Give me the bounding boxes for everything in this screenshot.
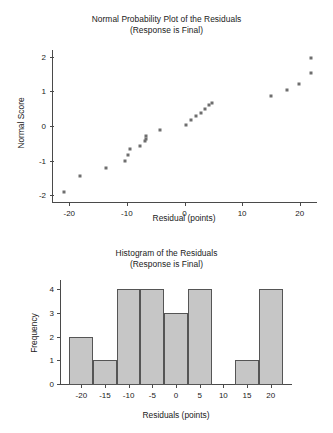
histogram-plot-area: -20-15-10-50510152001234 xyxy=(60,280,292,384)
normal-plot-y-tick xyxy=(50,195,54,196)
histogram-y-tick xyxy=(57,360,61,361)
histogram-figure: Histogram of the Residuals (Response is … xyxy=(0,240,333,433)
normal-plot-title: Normal Probability Plot of the Residuals… xyxy=(0,14,333,36)
scatter-point xyxy=(203,108,206,111)
histogram-y-tick xyxy=(57,384,61,385)
histogram-title: Histogram of the Residuals (Response is … xyxy=(0,248,333,270)
histogram-x-tick-label: 20 xyxy=(266,391,275,400)
scatter-point xyxy=(123,160,126,163)
scatter-point xyxy=(310,56,313,59)
scatter-point xyxy=(105,166,108,169)
histogram-x-tick-label: -20 xyxy=(76,391,88,400)
histogram-x-tick-label: 15 xyxy=(243,391,252,400)
histogram-title-main: Histogram of the Residuals xyxy=(116,248,218,258)
histogram-x-tick-label: -5 xyxy=(149,391,156,400)
histogram-y-axis xyxy=(60,280,61,385)
normal-plot-plot-area: -20-1001020-2-1012 xyxy=(52,50,317,202)
normal-plot-y-tick-label: -1 xyxy=(28,156,46,165)
scatter-point xyxy=(138,144,141,147)
normal-plot-x-tick-label: 10 xyxy=(238,209,247,218)
scatter-point xyxy=(129,148,132,151)
histogram-x-tick-label: -15 xyxy=(99,391,111,400)
histogram-y-tick xyxy=(57,313,61,314)
scatter-point xyxy=(208,104,211,107)
histogram-x-tick-label: -10 xyxy=(123,391,135,400)
normal-plot-y-tick-label: 1 xyxy=(28,87,46,96)
scatter-point xyxy=(144,138,147,141)
normal-plot-y-tick xyxy=(50,57,54,58)
normal-plot-x-tick xyxy=(185,202,186,206)
normal-plot-x-tick xyxy=(242,202,243,206)
histogram-title-sub: (Response is Final) xyxy=(0,259,333,270)
normal-plot-x-tick xyxy=(127,202,128,206)
histogram-x-tick-label: 0 xyxy=(174,391,178,400)
normal-plot-title-sub: (Response is Final) xyxy=(0,25,333,36)
normal-plot-title-main: Normal Probability Plot of the Residuals xyxy=(92,14,242,24)
scatter-point xyxy=(309,71,312,74)
normal-plot-y-tick-label: 2 xyxy=(28,52,46,61)
scatter-point xyxy=(127,154,130,157)
scatter-point xyxy=(210,101,213,104)
scatter-point xyxy=(270,95,273,98)
scatter-point xyxy=(286,89,289,92)
normal-plot-x-tick xyxy=(69,202,70,206)
histogram-y-tick-label: 0 xyxy=(35,380,54,389)
scatter-point xyxy=(195,115,198,118)
scatter-point xyxy=(199,111,202,114)
histogram-bar xyxy=(188,289,212,385)
normal-plot-x-axis-title: Residual (points) xyxy=(153,213,216,223)
normal-plot-y-tick xyxy=(50,126,54,127)
histogram-bar xyxy=(235,360,259,385)
normal-plot-y-axis-title: Normal Score xyxy=(16,88,26,158)
histogram-x-tick xyxy=(223,384,224,388)
histogram-x-tick-label: 10 xyxy=(219,391,228,400)
scatter-point xyxy=(189,119,192,122)
normal-plot-y-tick-label: -2 xyxy=(28,191,46,200)
normal-plot-x-tick xyxy=(300,202,301,206)
scatter-point xyxy=(298,82,301,85)
histogram-bar xyxy=(69,337,93,385)
scatter-point xyxy=(145,135,148,138)
scatter-point xyxy=(78,175,81,178)
normal-plot-y-tick xyxy=(50,91,54,92)
histogram-y-tick xyxy=(57,337,61,338)
histogram-x-tick-label: 5 xyxy=(197,391,201,400)
histogram-bar xyxy=(164,313,188,385)
normal-probability-plot-figure: Normal Probability Plot of the Residuals… xyxy=(0,0,333,240)
histogram-bar xyxy=(117,289,141,385)
histogram-y-tick xyxy=(57,289,61,290)
histogram-bar xyxy=(259,289,283,385)
histogram-y-tick-label: 4 xyxy=(35,285,54,294)
normal-plot-y-tick-label: 0 xyxy=(28,122,46,131)
histogram-bar xyxy=(93,360,117,385)
normal-plot-y-tick xyxy=(50,161,54,162)
histogram-y-axis-title: Frequency xyxy=(29,298,39,368)
normal-plot-x-tick-label: 20 xyxy=(295,209,304,218)
scatter-point xyxy=(62,190,65,193)
scatter-point xyxy=(184,124,187,127)
normal-plot-x-tick-label: -10 xyxy=(121,209,133,218)
histogram-x-axis-title: Residuals (points) xyxy=(142,410,209,420)
scatter-point xyxy=(159,128,162,131)
histogram-bar xyxy=(140,289,164,385)
normal-plot-x-tick-label: -20 xyxy=(64,209,76,218)
